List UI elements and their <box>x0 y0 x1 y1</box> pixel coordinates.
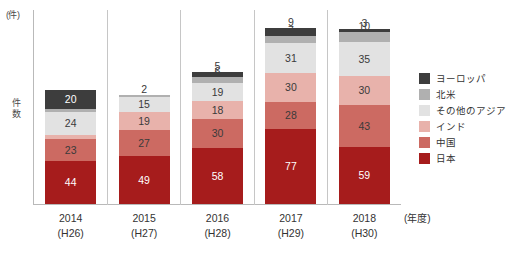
bar-stack[interactable]: 7728303179 <box>265 28 316 205</box>
bar-segment[interactable]: 23 <box>45 139 96 161</box>
bar-segment[interactable]: 18 <box>192 101 243 118</box>
bar-segment[interactable]: 24 <box>45 112 96 135</box>
bar-segment-value: 77 <box>285 161 297 172</box>
bar-segment-value: 44 <box>65 177 77 188</box>
bar-segment[interactable]: 3 <box>45 109 96 112</box>
bar-segment-value: 5 <box>192 61 243 72</box>
bar-segment[interactable]: 9 <box>265 28 316 37</box>
bar-segment[interactable]: 2 <box>119 95 170 97</box>
legend-item[interactable]: 北米 <box>419 89 506 100</box>
legend-item[interactable]: 日本 <box>419 153 506 164</box>
bar-segment-value: 2 <box>119 84 170 95</box>
x-axis-line <box>33 204 401 205</box>
bar-group: 7728303179 <box>254 10 327 204</box>
bar-segment[interactable]: 19 <box>119 112 170 130</box>
bar-segment[interactable]: 15 <box>119 97 170 112</box>
bar-segment-value: 31 <box>285 53 297 64</box>
bar-segment-value: 30 <box>212 128 224 139</box>
tick-year: 2018 <box>328 211 401 226</box>
bar-stack[interactable]: 59433035103 <box>339 29 390 204</box>
bar-segment-value: 9 <box>265 17 316 28</box>
bar-stack[interactable]: 4927191520 <box>119 95 170 204</box>
legend-swatch-icon <box>419 73 430 84</box>
legend-swatch-icon <box>419 89 430 100</box>
bar-segment-value: 58 <box>212 171 224 182</box>
legend-swatch-icon <box>419 137 430 148</box>
chart-legend: ヨーロッパ北米その他のアジアインド中国日本 <box>419 73 506 164</box>
legend-item[interactable]: ヨーロッパ <box>419 73 506 84</box>
tick-year: 2015 <box>107 211 180 226</box>
bar-segment-value: 19 <box>212 87 224 98</box>
stacked-bar-chart: (件) 件数 442342432049271915205830181965772… <box>0 0 513 255</box>
bar-segment[interactable]: 30 <box>339 76 390 105</box>
legend-item[interactable]: インド <box>419 121 506 132</box>
bar-group: 5830181965 <box>181 10 254 204</box>
bar-segment[interactable]: 5 <box>192 72 243 77</box>
bar-group: 59433035103 <box>328 10 401 204</box>
plot-area: 4423424320492719152058301819657728303179… <box>33 10 401 205</box>
bar-segment[interactable]: 30 <box>192 119 243 148</box>
legend-label: 中国 <box>436 137 456 148</box>
bar-segment[interactable]: 7 <box>265 36 316 43</box>
bar-segment[interactable]: 58 <box>192 148 243 204</box>
legend-label: 日本 <box>436 153 456 164</box>
bar-segment[interactable]: 27 <box>119 130 170 156</box>
bar-segment-value: 35 <box>358 54 370 65</box>
bar-segment-value: 15 <box>138 99 150 110</box>
bar-segment-value: 43 <box>358 121 370 132</box>
bar-segment[interactable]: 6 <box>192 77 243 83</box>
bar-segment[interactable]: 10 <box>339 32 390 42</box>
bar-segment[interactable]: 20 <box>45 90 96 109</box>
x-axis-unit-label: (年度) <box>404 211 431 226</box>
bar-segment-value: 24 <box>65 118 77 129</box>
legend-label: ヨーロッパ <box>436 73 486 84</box>
legend-item[interactable]: その他のアジア <box>419 105 506 116</box>
bar-segment[interactable]: 3 <box>339 29 390 32</box>
bar-segment-value: 3 <box>339 18 390 29</box>
x-axis-tick-label: 2015(H27) <box>107 211 180 241</box>
tick-era: (H28) <box>181 226 254 241</box>
tick-era: (H26) <box>34 226 107 241</box>
legend-item[interactable]: 中国 <box>419 137 506 148</box>
bar-segment[interactable]: 77 <box>265 129 316 204</box>
bar-stack[interactable]: 4423424320 <box>45 90 96 204</box>
tick-era: (H29) <box>254 226 327 241</box>
legend-swatch-icon <box>419 105 430 116</box>
bar-group: 4927191520 <box>107 10 180 204</box>
legend-label: その他のアジア <box>436 105 506 116</box>
bar-series-container: 4423424320492719152058301819657728303179… <box>34 10 401 204</box>
legend-swatch-icon <box>419 121 430 132</box>
x-axis-tick-label: 2017(H29) <box>254 211 327 241</box>
tick-year: 2016 <box>181 211 254 226</box>
tick-era: (H27) <box>107 226 180 241</box>
x-axis-labels: 2014(H26)2015(H27)2016(H28)2017(H29)2018… <box>34 211 401 241</box>
bar-segment[interactable]: 49 <box>119 156 170 204</box>
bar-stack[interactable]: 5830181965 <box>192 72 243 204</box>
legend-swatch-icon <box>419 153 430 164</box>
x-axis-tick-label: 2018(H30) <box>328 211 401 241</box>
bar-segment[interactable]: 59 <box>339 147 390 204</box>
bar-segment[interactable]: 28 <box>265 102 316 129</box>
bar-segment-value: 28 <box>285 110 297 121</box>
tick-era: (H30) <box>328 226 401 241</box>
bar-segment[interactable]: 44 <box>45 161 96 204</box>
y-axis-title: 件数 <box>10 98 22 120</box>
bar-group: 4423424320 <box>34 10 107 204</box>
x-axis-tick-label: 2016(H28) <box>181 211 254 241</box>
bar-segment-value: 30 <box>358 85 370 96</box>
bar-segment[interactable]: 30 <box>265 73 316 102</box>
bar-segment[interactable]: 31 <box>265 43 316 73</box>
x-axis-tick-label: 2014(H26) <box>34 211 107 241</box>
bar-segment[interactable]: 4 <box>45 135 96 139</box>
bar-segment[interactable]: 43 <box>339 105 390 147</box>
y-axis-unit-label: (件) <box>6 8 20 21</box>
legend-label: 北米 <box>436 89 456 100</box>
bar-segment-value: 59 <box>358 170 370 181</box>
bar-segment[interactable]: 35 <box>339 42 390 76</box>
tick-year: 2014 <box>34 211 107 226</box>
bar-segment-value: 18 <box>212 105 224 116</box>
tick-year: 2017 <box>254 211 327 226</box>
bar-segment[interactable]: 19 <box>192 83 243 101</box>
bar-segment-value: 30 <box>285 82 297 93</box>
bar-segment-value: 20 <box>65 94 77 105</box>
